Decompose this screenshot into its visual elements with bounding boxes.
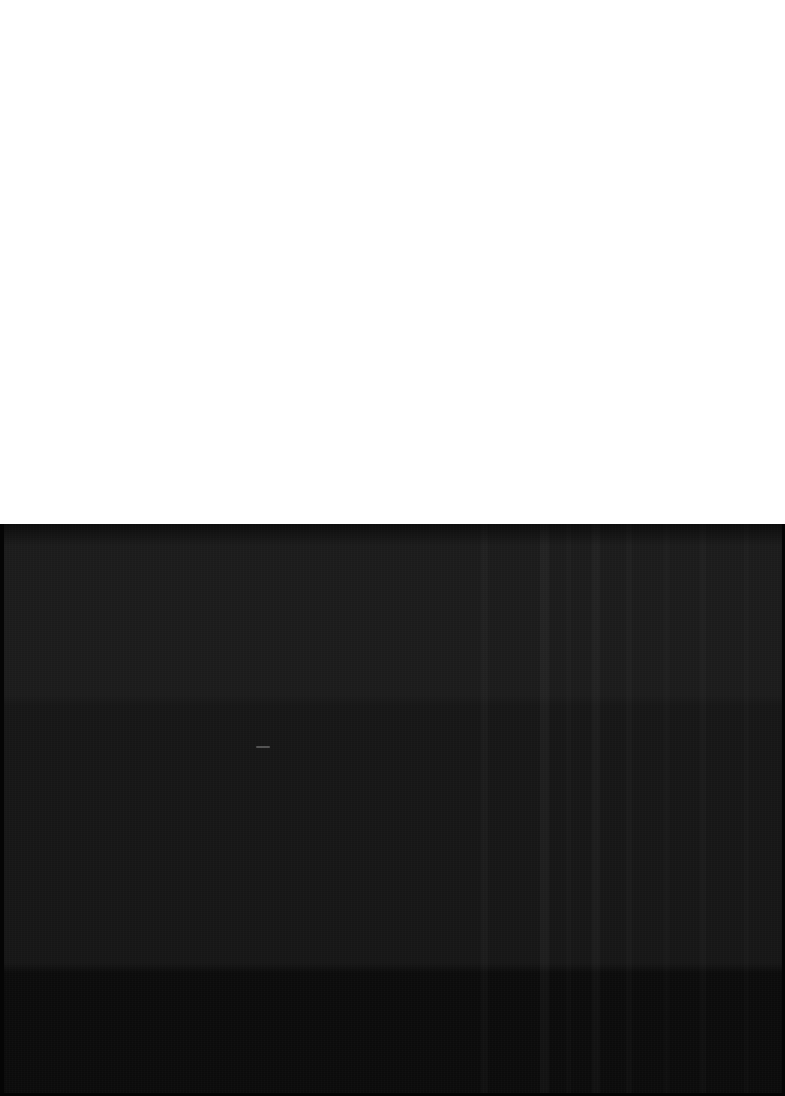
- dark-capture-area: [0, 524, 785, 1096]
- left-edge-strip: [0, 524, 4, 1096]
- screenshot-root: [0, 0, 785, 1096]
- upper-band: [0, 524, 785, 700]
- light-dash-artifact: [256, 746, 270, 748]
- lower-band: [0, 968, 785, 1096]
- middle-band: [0, 700, 785, 968]
- blank-white-area: [0, 0, 785, 524]
